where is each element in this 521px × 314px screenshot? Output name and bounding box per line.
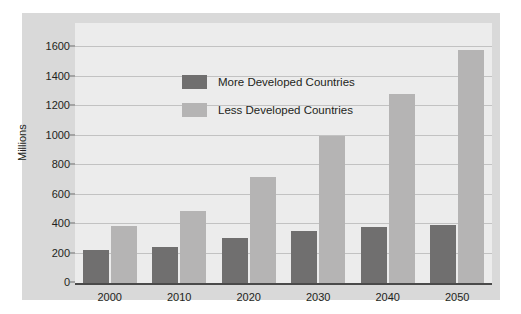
y-axis-label: Millions bbox=[16, 124, 28, 161]
chart-figure: Millions 02004006008001000120014001600 2… bbox=[22, 13, 500, 300]
bar-group bbox=[214, 24, 284, 283]
y-axis-tick-label: 200 bbox=[36, 247, 70, 259]
legend-swatch-icon bbox=[182, 75, 207, 89]
y-axis-tick-label: 600 bbox=[36, 188, 70, 200]
x-axis-tick-label: 2050 bbox=[422, 291, 492, 303]
y-axis-tick-label: 1600 bbox=[36, 40, 70, 52]
y-axis-tick-label: 1400 bbox=[36, 70, 70, 82]
legend-item: More Developed Countries bbox=[182, 75, 355, 89]
legend-label: More Developed Countries bbox=[218, 76, 355, 88]
bar-group bbox=[423, 24, 493, 283]
x-axis-tick-label: 2000 bbox=[75, 291, 145, 303]
bar bbox=[458, 50, 484, 283]
bar-group bbox=[353, 24, 423, 283]
bar bbox=[222, 238, 248, 283]
x-axis-tick-label: 2030 bbox=[283, 291, 353, 303]
plot-area bbox=[75, 23, 492, 285]
bar bbox=[180, 211, 206, 283]
y-axis-tick-label: 1200 bbox=[36, 99, 70, 111]
bar bbox=[389, 94, 415, 283]
y-axis-tick-label: 0 bbox=[36, 276, 70, 288]
legend-item: Less Developed Countries bbox=[182, 103, 355, 117]
bar bbox=[111, 226, 137, 283]
x-axis-tick-label: 2010 bbox=[144, 291, 214, 303]
bar-group bbox=[284, 24, 354, 283]
bar-group bbox=[75, 24, 145, 283]
bar bbox=[430, 225, 456, 283]
x-axis-line bbox=[75, 283, 492, 285]
bar bbox=[319, 136, 345, 284]
bar bbox=[361, 227, 387, 283]
bar bbox=[250, 177, 276, 283]
x-axis-tick-label: 2020 bbox=[214, 291, 284, 303]
legend-label: Less Developed Countries bbox=[218, 104, 353, 116]
x-axis-tick-label: 2040 bbox=[353, 291, 423, 303]
y-axis-tick-label: 800 bbox=[36, 158, 70, 170]
chart-legend: More Developed CountriesLess Developed C… bbox=[182, 75, 355, 117]
bar-group bbox=[145, 24, 215, 283]
bar bbox=[291, 231, 317, 283]
bar bbox=[83, 250, 109, 283]
y-axis-tick-label: 400 bbox=[36, 217, 70, 229]
legend-swatch-icon bbox=[182, 103, 207, 117]
bar bbox=[152, 247, 178, 283]
y-axis-tick-label: 1000 bbox=[36, 129, 70, 141]
